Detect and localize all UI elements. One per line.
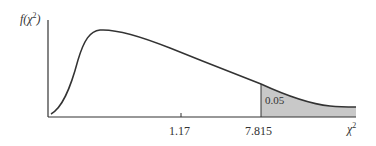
x-tick-label-1-17: 1.17 — [169, 124, 190, 139]
x-tick-label-7-815: 7.815 — [245, 124, 272, 139]
density-curve — [51, 30, 356, 114]
x-axis-label: χ2 — [347, 121, 356, 137]
y-axis-label: f(χ2) — [20, 11, 41, 27]
shaded-area-label: 0.05 — [265, 94, 284, 106]
